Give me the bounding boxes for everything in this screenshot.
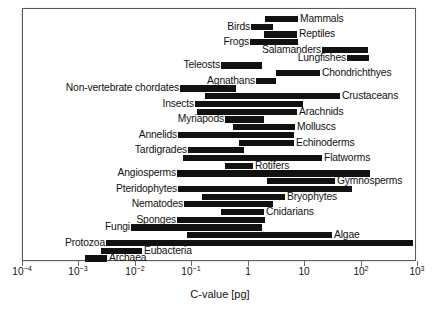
axis-tick-exponent: −3 xyxy=(79,264,87,273)
axis-tick-label: 102 xyxy=(353,266,368,277)
axis-tick-label: 10−1 xyxy=(181,266,200,277)
axis-tick-exponent: −4 xyxy=(23,264,31,273)
x-axis: 10−410−310−210−1110102103 xyxy=(22,261,416,269)
axis-tick-label: 10 xyxy=(298,266,309,277)
x-axis-title: C-value [pg] xyxy=(0,288,440,300)
axis-tick-label: 10−2 xyxy=(125,266,144,277)
plot-frame xyxy=(22,8,416,261)
axis-tick-label: 10−4 xyxy=(12,266,31,277)
axis-tick-exponent: −2 xyxy=(136,264,144,273)
c-value-chart-figure: MammalsBirdsReptilesFrogsSalamandersLung… xyxy=(0,0,440,312)
axis-tick-exponent: 3 xyxy=(421,264,425,273)
axis-tick-exponent: 2 xyxy=(365,264,369,273)
axis-tick-exponent: −1 xyxy=(192,264,200,273)
axis-tick-label: 1 xyxy=(245,266,251,277)
axis-tick-label: 10−3 xyxy=(68,266,87,277)
axis-tick-label: 103 xyxy=(409,266,424,277)
